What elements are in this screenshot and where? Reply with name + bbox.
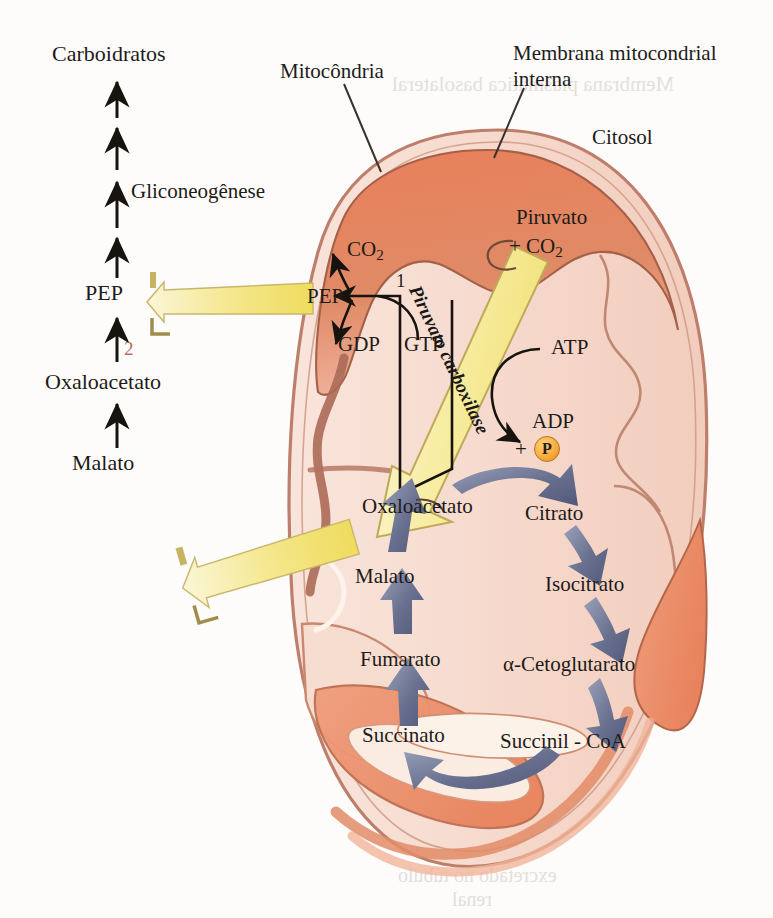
- label-cycle-succinyl-coa: Succinil - CoA: [500, 730, 626, 754]
- label-adp: ADP: [532, 410, 574, 434]
- label-inner-membrane-line2: interna: [513, 68, 571, 92]
- label-cycle-isocitrate: Isocitrato: [545, 573, 624, 597]
- label-cycle-malate: Malato: [355, 565, 414, 589]
- label-plus-sign: +: [515, 438, 527, 462]
- figure-canvas: Membrana plasmática basolateral excretad…: [0, 0, 773, 918]
- label-atp: ATP: [551, 336, 588, 360]
- label-matrix-pep: PEP: [307, 285, 343, 309]
- label-step-number-2: 2: [124, 338, 134, 359]
- label-cytosolic-oxaloacetate: Oxaloacetato: [45, 370, 161, 395]
- label-gdp: GDP: [338, 333, 380, 357]
- label-cycle-citrate: Citrato: [525, 502, 583, 526]
- label-step-number-1: 1: [396, 270, 406, 291]
- leader-line-mitochondria: [344, 84, 381, 172]
- label-mitochondria: Mitocôndria: [280, 60, 384, 84]
- label-inner-membrane-line1: Membrana mitocondrial: [513, 42, 717, 66]
- label-cytosol: Citosol: [592, 126, 653, 150]
- label-cycle-succinate: Succinato: [362, 724, 445, 748]
- label-cytosolic-malate: Malato: [72, 451, 134, 476]
- transporter-pep: [147, 272, 313, 334]
- label-cytosolic-pep: PEP: [85, 281, 123, 306]
- phosphate-icon: P: [534, 436, 560, 462]
- label-matrix-co2: CO2: [347, 238, 384, 264]
- label-cycle-alpha-ketoglutarate: α-Cetoglutarato: [503, 653, 635, 677]
- label-gluconeogenesis: Gliconeogênese: [131, 180, 265, 204]
- label-pyruvate-plus-co2: + CO2: [509, 235, 563, 261]
- label-pyruvate: Piruvato: [516, 206, 587, 230]
- label-cycle-oxaloacetate: Oxaloacetato: [362, 495, 473, 519]
- label-cycle-fumarate: Fumarato: [360, 648, 440, 672]
- label-carbohydrates: Carboidratos: [52, 42, 166, 67]
